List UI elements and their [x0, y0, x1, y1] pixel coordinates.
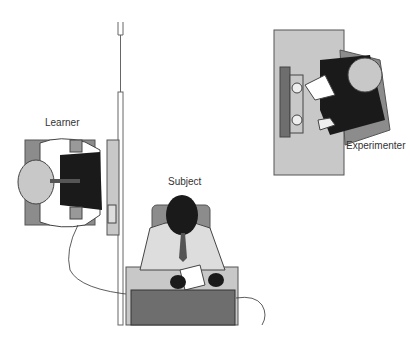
- diagram-canvas: [0, 0, 410, 354]
- experimenter-figure: [274, 30, 390, 175]
- experimenter-label: Experimenter: [346, 140, 405, 151]
- learner-label: Learner: [45, 117, 79, 128]
- subject-label: Subject: [168, 176, 201, 187]
- subject-figure: [126, 195, 265, 325]
- learner-figure: [18, 139, 135, 295]
